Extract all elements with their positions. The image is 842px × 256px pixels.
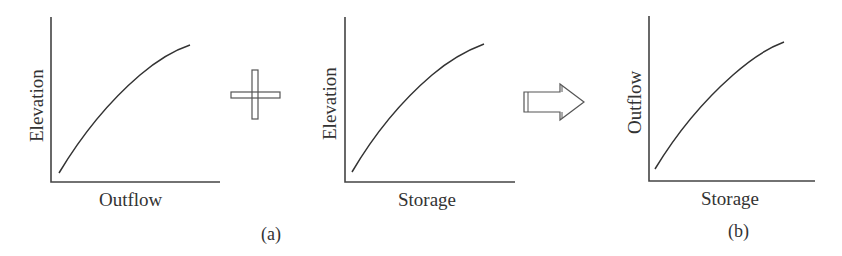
curve [59, 45, 190, 173]
panel-outflow-storage: Outflow Storage [624, 16, 815, 209]
axes [51, 17, 220, 182]
axes [649, 16, 815, 181]
panel-elevation-storage: Elevation Storage [319, 17, 515, 210]
plus-sign-icon [231, 70, 280, 119]
figure-canvas: Elevation Outflow Elevation Storage Outf… [0, 0, 842, 256]
panel-elevation-outflow: Elevation Outflow [26, 17, 220, 210]
curve [352, 44, 484, 172]
x-axis-label: Outflow [99, 189, 163, 210]
caption-a: (a) [261, 224, 281, 245]
curve [655, 42, 784, 169]
y-axis-label: Outflow [624, 70, 645, 134]
axes [345, 17, 515, 182]
y-axis-label: Elevation [319, 67, 340, 140]
y-axis-label: Elevation [26, 69, 47, 142]
caption-b: (b) [728, 221, 749, 242]
x-axis-label: Storage [398, 189, 456, 210]
right-arrow-icon [524, 84, 584, 120]
x-axis-label: Storage [701, 188, 759, 209]
